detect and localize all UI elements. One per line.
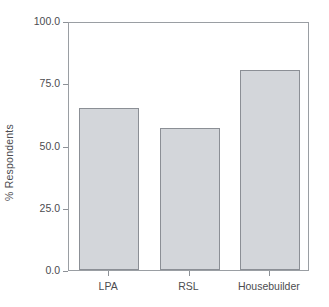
y-tick-label: 25.0 xyxy=(14,202,60,214)
x-tick-label: RSL xyxy=(178,280,198,292)
y-tick-label: 0.0 xyxy=(14,264,60,276)
x-tick-label: Housebuilder xyxy=(238,280,300,292)
y-axis-title: % Respondents xyxy=(0,0,18,307)
y-tick-mark xyxy=(63,271,68,272)
bar-rsl xyxy=(160,128,220,270)
y-tick-label: 100.0 xyxy=(14,15,60,27)
x-tick-label: LPA xyxy=(99,280,118,292)
bar-chart-figure: % Respondents 0.025.050.075.0100.0 LPARS… xyxy=(0,0,329,307)
bar-housebuilder xyxy=(240,70,300,270)
x-tick-mark xyxy=(108,271,109,276)
y-tick-label: 75.0 xyxy=(14,77,60,89)
plot-area xyxy=(68,22,309,271)
x-tick-mark xyxy=(189,271,190,276)
bar-lpa xyxy=(79,108,139,270)
y-tick-label: 50.0 xyxy=(14,140,60,152)
y-axis-title-text: % Respondents xyxy=(3,124,15,201)
x-tick-mark xyxy=(269,271,270,276)
